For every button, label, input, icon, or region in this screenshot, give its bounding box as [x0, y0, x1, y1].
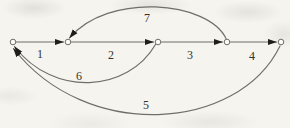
graph-canvas: 1 2 3 4 5 6 7 — [0, 0, 290, 128]
edge-7-label: 7 — [144, 11, 150, 25]
node-5 — [278, 39, 284, 45]
node-4 — [224, 39, 230, 45]
edge-1-label: 1 — [37, 47, 43, 61]
edge-3-label: 3 — [187, 48, 193, 62]
node-2 — [65, 39, 71, 45]
edge-6-arc — [15, 45, 156, 83]
edge-2-label: 2 — [108, 48, 114, 62]
node-3 — [155, 39, 161, 45]
edge-4-label: 4 — [249, 49, 255, 63]
diagram-figure: 1 2 3 4 5 6 7 — [0, 0, 290, 128]
edge-5-label: 5 — [143, 98, 149, 112]
edge-6-label: 6 — [76, 69, 82, 83]
node-1 — [10, 39, 16, 45]
